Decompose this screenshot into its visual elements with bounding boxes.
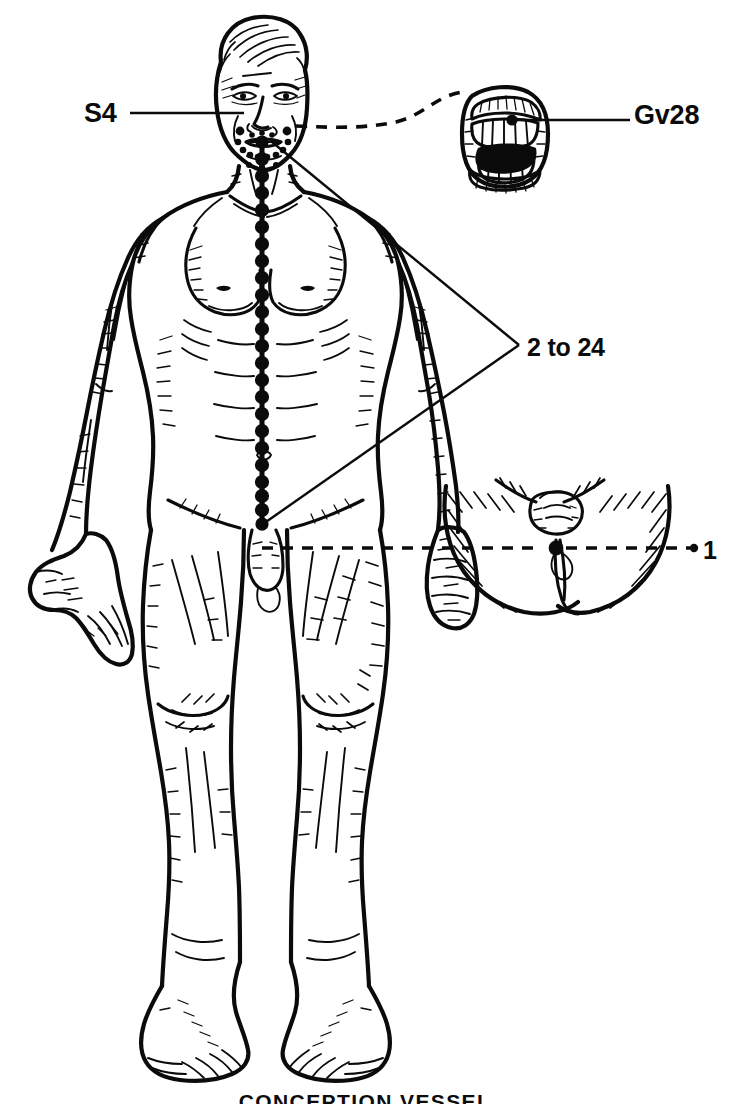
left-thigh-lines (172, 552, 228, 644)
cv-points (255, 135, 269, 530)
arms-group (30, 218, 477, 665)
cv1-leader-dot (690, 544, 698, 552)
right-shin-hatching (299, 768, 365, 882)
conception-vessel-chart: S4 Gv28 2 to 24 1 CONCEPTION VESSEL (0, 0, 730, 1104)
face-to-mouth-dashed-connector (296, 92, 462, 127)
pelvis-group (248, 530, 283, 612)
right-foot-hatching (313, 1000, 371, 1046)
left-thigh-hatching (147, 564, 222, 668)
groin-hatching (252, 542, 279, 568)
cv1-point (549, 541, 564, 556)
right-thigh-lines (303, 552, 359, 644)
left-shin-hatching (166, 768, 232, 882)
figure-caption: CONCEPTION VESSEL (0, 1090, 730, 1104)
hair-hatching (220, 25, 305, 74)
left-foot-hatching (160, 1000, 218, 1046)
legs-group (141, 530, 390, 1081)
range-leader-lower (263, 345, 519, 524)
right-thigh-hatching (307, 562, 384, 666)
label-2-to-24: 2 to 24 (527, 333, 605, 362)
anatomical-line-drawing (0, 0, 730, 1104)
label-gv28: Gv28 (634, 100, 699, 131)
mouth-inset (462, 87, 548, 193)
label-s4: S4 (84, 98, 117, 129)
label-cv1: 1 (703, 536, 717, 565)
midline-point-chain (255, 135, 269, 530)
